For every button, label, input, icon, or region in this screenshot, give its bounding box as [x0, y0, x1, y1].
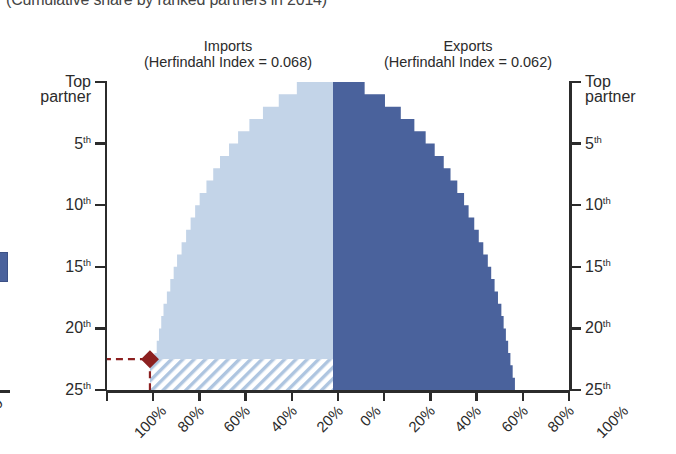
clipped-axis-fragment: [0, 390, 10, 393]
right-rank-10-tick: [569, 204, 581, 207]
right-rank-10-label: 10th: [585, 195, 611, 214]
left-rank-25-label: 25th: [65, 380, 91, 399]
page-title: (Cumulative share by ranked partners in …: [6, 0, 327, 9]
percent-tick-10: [568, 390, 571, 401]
left-rank-15-tick: [95, 266, 107, 269]
imports-title: Imports: [118, 38, 338, 54]
right-rank-20-label: 20th: [585, 318, 611, 337]
right-axis-spine: [569, 82, 572, 390]
percent-label-8: 60%: [497, 402, 530, 435]
imports-hatched-remainder: [150, 359, 333, 390]
percent-label-7: 40%: [451, 402, 484, 435]
percent-label-4: 20%: [313, 402, 346, 435]
percent-tick-0: [106, 390, 109, 401]
cumulative-share-chart: [107, 82, 569, 390]
percent-tick-5: [337, 390, 340, 401]
hatched-remainder-rect: [150, 359, 333, 390]
left-rank-20-label: 20th: [65, 318, 91, 337]
imports-area-path: [154, 82, 333, 359]
left-rank-axis: Toppartner5th10th15th20th25th: [95, 82, 107, 390]
right-rank-20-tick: [569, 327, 581, 330]
percent-label-9: 80%: [544, 402, 577, 435]
percent-tick-2: [198, 390, 201, 401]
exports-herfindahl: (Herfindahl Index = 0.062): [358, 54, 578, 70]
exports-area-path: [333, 82, 515, 390]
chart-plot-area: [107, 82, 569, 390]
percent-tick-7: [429, 390, 432, 401]
left-rank-10-label: 10th: [65, 195, 91, 214]
exports-area: [333, 82, 515, 390]
percent-label-2: 60%: [220, 402, 253, 435]
right-rank-25-label: 25th: [585, 380, 611, 399]
percent-tick-4: [291, 390, 294, 401]
right-rank-5-tick: [569, 142, 581, 145]
percent-label-1: 80%: [174, 402, 207, 435]
bottom-percent-axis: [107, 390, 569, 393]
percent-tick-8: [475, 390, 478, 401]
left-rank-top-tick: [95, 81, 107, 84]
left-rank-10-tick: [95, 204, 107, 207]
left-rank-5-label: 5th: [74, 134, 91, 153]
imports-herfindahl: (Herfindahl Index = 0.068): [118, 54, 338, 70]
percent-label-0: 100%: [130, 402, 169, 441]
right-rank-5-label: 5th: [585, 134, 602, 153]
legend-swatch-exports: [0, 252, 8, 282]
left-rank-5-tick: [95, 142, 107, 145]
percent-tick-1: [152, 390, 155, 401]
imports-header: Imports (Herfindahl Index = 0.068): [118, 38, 338, 70]
right-rank-15-label: 15th: [585, 257, 611, 276]
right-rank-25-tick: [569, 389, 581, 392]
right-rank-axis: Toppartner5th10th15th20th25th: [569, 82, 581, 390]
clipped-axis-label: 0: [0, 394, 6, 412]
percent-label-6: 20%: [405, 402, 438, 435]
left-axis-spine: [105, 82, 108, 390]
exports-title: Exports: [358, 38, 578, 54]
percent-label-10: 100%: [592, 402, 631, 441]
left-rank-15-label: 15th: [65, 257, 91, 276]
imports-area: [154, 82, 333, 359]
percent-tick-9: [522, 390, 525, 401]
exports-header: Exports (Herfindahl Index = 0.062): [358, 38, 578, 70]
percent-tick-6: [383, 390, 386, 401]
right-rank-top-label: Toppartner: [585, 74, 636, 104]
percent-label-3: 40%: [266, 402, 299, 435]
right-rank-top-tick: [569, 81, 581, 84]
right-rank-15-tick: [569, 266, 581, 269]
left-rank-top-label: Toppartner: [40, 74, 91, 104]
percent-tick-3: [244, 390, 247, 401]
left-rank-20-tick: [95, 327, 107, 330]
percent-label-5: 0%: [356, 402, 383, 429]
